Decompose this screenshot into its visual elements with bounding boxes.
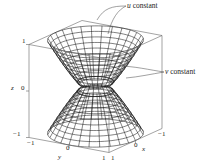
z-axis-label: z <box>10 84 14 92</box>
z-tick-minus1: −1 <box>13 130 21 138</box>
z-tick-1: 1 <box>22 37 26 45</box>
v-constant-annotation: v constant <box>165 67 196 76</box>
u-constant-annotation: u constant <box>127 1 159 10</box>
z-tick-0: 0 <box>21 84 25 92</box>
y-tick-minus1: −1 <box>27 139 35 147</box>
surface-figure: u constant v constant 1 0 z −1 −1 0 y 1 … <box>0 0 206 160</box>
x-tick-minus1: −1 <box>158 130 166 138</box>
y-axis-label: y <box>57 153 62 160</box>
wireframe-surface <box>48 26 144 147</box>
y-tick-0: 0 <box>66 144 70 152</box>
x-axis-label: x <box>141 145 146 153</box>
x-tick-0: 0 <box>134 141 138 149</box>
surface-plot: u constant v constant 1 0 z −1 −1 0 y 1 … <box>0 0 206 160</box>
y-tick-1: 1 <box>102 154 106 160</box>
x-tick-1: 1 <box>111 154 115 160</box>
